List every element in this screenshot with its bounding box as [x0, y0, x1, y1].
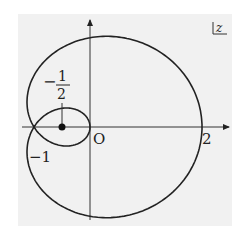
- frac-denominator: 2: [57, 86, 66, 102]
- origin-label: O: [93, 130, 105, 148]
- frac-numerator: 1: [58, 68, 67, 84]
- complex-plane-diagram: − 1 2 O 2 −1 z: [0, 0, 244, 242]
- neg-one-label: −1: [29, 148, 51, 166]
- plane-label-z: z: [215, 21, 223, 35]
- x-two-label: 2: [202, 130, 212, 148]
- frac-sign: −: [43, 72, 56, 91]
- center-point: [59, 124, 66, 131]
